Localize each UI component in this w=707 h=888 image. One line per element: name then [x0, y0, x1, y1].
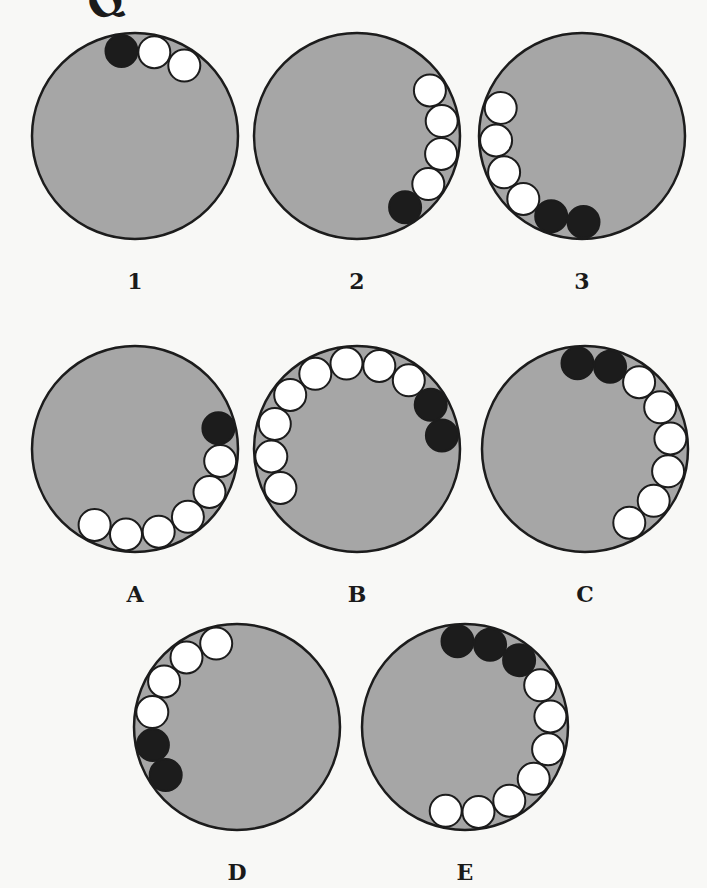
black-ball — [562, 347, 594, 379]
white-ball — [644, 391, 676, 423]
white-ball — [200, 628, 232, 660]
white-ball — [264, 472, 296, 504]
black-ball — [535, 200, 567, 232]
white-ball — [488, 156, 520, 188]
sequence-figure-3 — [479, 33, 685, 239]
white-ball — [414, 74, 446, 106]
sequence-label-1: 1 — [127, 270, 142, 292]
black-ball — [474, 629, 506, 661]
white-ball — [534, 701, 566, 733]
puzzle-diagram — [0, 0, 707, 888]
white-ball — [430, 795, 462, 827]
sequence-label-2: 2 — [349, 270, 364, 292]
white-ball — [613, 507, 645, 539]
white-ball — [426, 105, 458, 137]
white-ball — [204, 445, 236, 477]
white-ball — [480, 125, 512, 157]
black-ball — [594, 351, 626, 383]
white-ball — [143, 516, 175, 548]
white-ball — [138, 36, 170, 68]
white-ball — [507, 183, 539, 215]
option-label-c[interactable]: C — [576, 583, 594, 605]
white-ball — [79, 509, 111, 541]
white-ball — [425, 138, 457, 170]
option-figure-e[interactable] — [362, 624, 568, 830]
black-ball — [568, 206, 600, 238]
black-ball — [202, 412, 234, 444]
white-ball — [255, 441, 287, 473]
black-ball — [389, 191, 421, 223]
sequence-figure-2 — [254, 33, 460, 239]
white-ball — [172, 501, 204, 533]
white-ball — [331, 348, 363, 380]
black-ball — [106, 35, 138, 67]
white-ball — [524, 669, 556, 701]
option-label-e[interactable]: E — [457, 861, 474, 883]
black-ball — [426, 420, 458, 452]
white-ball — [110, 519, 142, 551]
white-ball — [485, 92, 517, 124]
white-ball — [532, 733, 564, 765]
white-ball — [463, 796, 495, 828]
white-ball — [136, 696, 168, 728]
white-ball — [654, 423, 686, 455]
white-ball — [652, 455, 684, 487]
sequence-label-3: 3 — [574, 270, 589, 292]
option-figure-d[interactable] — [134, 624, 340, 830]
disc — [32, 33, 238, 239]
option-label-b[interactable]: B — [348, 583, 367, 605]
white-ball — [493, 785, 525, 817]
white-ball — [363, 350, 395, 382]
option-figure-c[interactable] — [482, 346, 688, 552]
white-ball — [623, 366, 655, 398]
option-label-a[interactable]: A — [126, 583, 143, 605]
option-figure-a[interactable] — [32, 346, 238, 552]
disc — [134, 624, 340, 830]
black-ball — [150, 759, 182, 791]
disc — [254, 33, 460, 239]
white-ball — [148, 665, 180, 697]
sequence-figure-1 — [32, 33, 238, 239]
black-ball — [137, 729, 169, 761]
white-ball — [274, 379, 306, 411]
option-figure-b[interactable] — [254, 346, 460, 552]
white-ball — [168, 50, 200, 82]
white-ball — [194, 476, 226, 508]
black-ball — [442, 625, 474, 657]
black-ball — [503, 644, 535, 676]
white-ball — [393, 364, 425, 396]
white-ball — [259, 408, 291, 440]
white-ball — [299, 358, 331, 390]
white-ball — [171, 641, 203, 673]
option-label-d[interactable]: D — [227, 861, 246, 883]
